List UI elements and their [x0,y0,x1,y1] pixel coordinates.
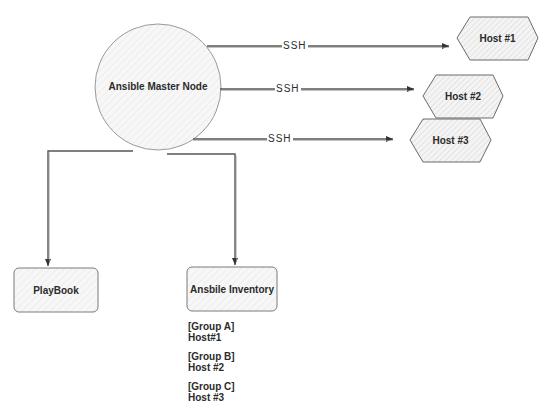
ssh-connector-1 [207,46,449,48]
inventory-groups: [Group A] Host#1 [Group B] Host #2 [Grou… [188,321,235,411]
host-2-label: Host #2 [423,91,503,102]
group-c-name: [Group C] [188,381,235,392]
group-c-host: Host #3 [188,392,235,403]
ssh-connector-3 [193,139,393,141]
ssh-label-2: SSH [275,84,301,94]
host-3-label: Host #3 [410,135,491,146]
ssh-label-3: SSH [267,134,293,144]
inventory-connector [167,154,237,265]
group-b-name: [Group B] [188,351,235,362]
inventory-group-b: [Group B] Host #2 [188,351,235,373]
playbook-label: PlayBook [14,285,98,296]
host-1-label: Host #1 [457,33,538,44]
group-a-name: [Group A] [188,321,235,332]
inventory-label: Ansbile Inventory [187,284,277,295]
playbook-connector [48,151,133,266]
ssh-label-1: SSH [282,41,308,51]
ssh-connector-2 [220,89,414,91]
master-node-label: Ansible Master Node [95,81,221,92]
inventory-group-a: [Group A] Host#1 [188,321,235,343]
group-a-host: Host#1 [188,332,235,343]
group-b-host: Host #2 [188,362,235,373]
inventory-group-c: [Group C] Host #3 [188,381,235,403]
